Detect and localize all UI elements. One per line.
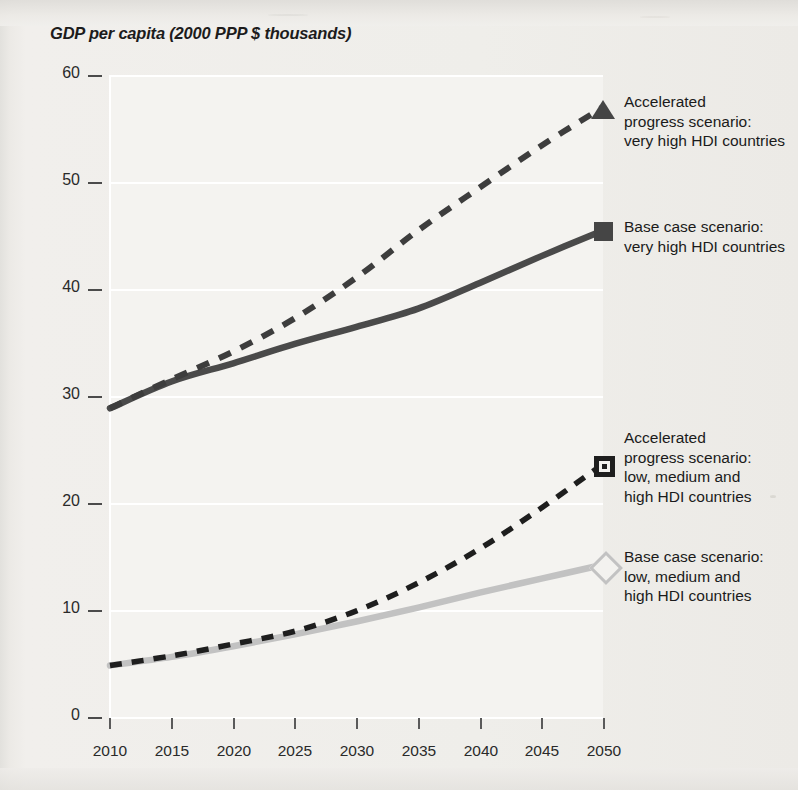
chart-title: GDP per capita (2000 PPP $ thousands) [50,24,351,43]
y-tick-label-20: 20 [40,492,80,510]
y-tick-label-10: 10 [40,599,80,617]
gridline-20 [110,503,603,505]
x-tick-mark-2045 [541,718,543,729]
x-tick-label-2050: 2050 [577,742,631,760]
x-tick-label-2040: 2040 [454,742,508,760]
y-tick-mark-60 [88,75,102,77]
x-tick-label-2020: 2020 [207,742,261,760]
legend-line-1: Base case scenario: [624,547,764,567]
x-tick-label-2045: 2045 [515,742,569,760]
gridline-50 [110,182,603,184]
gridline-60 [110,75,603,77]
y-tick-label-50: 50 [40,171,80,189]
legend-line-2: progress scenario: [624,448,752,468]
legend-line-2: progress scenario: [624,112,785,132]
x-tick-label-2025: 2025 [268,742,322,760]
legend-line-1: Accelerated [624,428,752,448]
x-tick-label-2035: 2035 [392,742,446,760]
x-tick-mark-2030 [356,718,358,729]
plot-area [110,70,603,720]
legend-line-1: Accelerated [624,92,785,112]
x-tick-mark-2010 [109,718,111,729]
legend-base-case-very-high-hdi: Base case scenario: very high HDI countr… [624,217,785,256]
triangle-marker [591,100,615,119]
x-tick-mark-2025 [294,718,296,729]
y-tick-label-0: 0 [40,706,80,724]
gridline-40 [110,289,603,291]
framed-square-marker [594,456,615,477]
y-tick-mark-20 [88,503,102,505]
y-tick-label-40: 40 [40,278,80,296]
y-tick-mark-50 [88,182,102,184]
y-tick-mark-40 [88,289,102,291]
legend-line-3: very high HDI countries [624,131,785,151]
filled-square-marker [594,222,613,241]
x-tick-mark-2040 [480,718,482,729]
legend-line-1: Base case scenario: [624,217,785,237]
legend-accelerated-very-high-hdi: Accelerated progress scenario: very high… [624,92,785,151]
y-tick-mark-30 [88,396,102,398]
legend-line-2: low, medium and [624,567,764,587]
x-tick-mark-2050 [603,718,605,729]
legend-line-3: low, medium and [624,467,752,487]
x-tick-mark-2015 [171,718,173,729]
x-tick-mark-2020 [233,718,235,729]
y-axis-line [109,75,111,719]
x-tick-mark-2035 [418,718,420,729]
y-tick-label-30: 30 [40,385,80,403]
legend-line-3: high HDI countries [624,586,764,606]
x-tick-label-2015: 2015 [145,742,199,760]
legend-accelerated-low-medium-high-hdi: Accelerated progress scenario: low, medi… [624,428,752,506]
legend-line-2: very high HDI countries [624,237,785,257]
y-tick-mark-10 [88,610,102,612]
y-tick-mark-0 [88,717,102,719]
x-tick-label-2030: 2030 [330,742,384,760]
legend-line-4: high HDI countries [624,487,752,507]
x-tick-label-2010: 2010 [83,742,137,760]
legend-base-case-low-medium-high-hdi: Base case scenario: low, medium and high… [624,547,764,606]
gridline-30 [110,396,603,398]
gridline-10 [110,610,603,612]
y-tick-label-60: 60 [40,64,80,82]
open-diamond-marker [594,556,618,580]
